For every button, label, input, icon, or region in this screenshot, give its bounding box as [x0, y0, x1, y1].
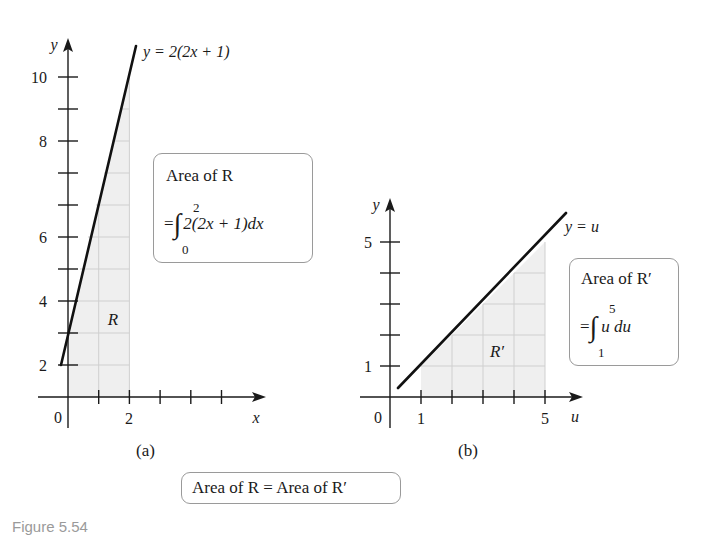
- u-tick-label-5: 5: [541, 410, 549, 427]
- area-r-prime-integrand: u du: [601, 317, 631, 336]
- origin-label: 0: [54, 409, 62, 426]
- equal-area-box: Area of R = Area of R′: [181, 472, 401, 504]
- u-axis-label: u: [571, 408, 579, 425]
- region-r-prime-label: R′: [489, 342, 504, 361]
- area-r-lower-limit: 0: [182, 240, 189, 260]
- y-tick-label-8: 8: [39, 133, 47, 150]
- area-r-integral: =∫2(2x + 1)dx: [164, 210, 264, 234]
- area-r-prime-lower-limit: 1: [598, 343, 605, 363]
- y-tick-label-5-b: 5: [364, 234, 372, 251]
- area-r-prime-box: Area of R′ =∫u du 5 1: [569, 258, 679, 366]
- figure-caption: Figure 5.54: [12, 518, 88, 535]
- area-r-prime-integral: =∫u du: [580, 313, 631, 337]
- u-tick-label-1: 1: [417, 410, 425, 427]
- panel-b-plot: 1 5 0 1 5 u y y = u R′: [360, 196, 599, 428]
- area-r-prime-upper-limit: 5: [609, 299, 616, 319]
- curve-label: y = 2(2x + 1): [141, 43, 229, 61]
- y-axis-label: y: [48, 36, 58, 54]
- y-tick-label-10: 10: [31, 69, 47, 86]
- x-axis-label: x: [251, 409, 259, 426]
- equal-area-text: Area of R = Area of R′: [192, 478, 347, 498]
- region-r-label: R: [107, 310, 119, 329]
- y-tick-label-4: 4: [39, 293, 47, 310]
- x-tick-label-2: 2: [125, 410, 133, 427]
- integral-sign-icon-b: ∫: [590, 311, 598, 342]
- panel-b-label: (b): [458, 441, 478, 461]
- origin-label-b: 0: [374, 409, 382, 426]
- area-r-prime-title: Area of R′: [581, 269, 652, 289]
- area-r-title: Area of R: [166, 166, 233, 186]
- area-r-box: Area of R =∫2(2x + 1)dx 2 0: [153, 153, 313, 263]
- y-tick-label-2: 2: [39, 357, 47, 374]
- integral-sign-icon: ∫: [174, 208, 182, 239]
- panel-a-label: (a): [136, 441, 155, 461]
- curve-label-b: y = u: [563, 218, 599, 236]
- y-tick-label-6: 6: [39, 229, 47, 246]
- y-axis-label-b: y: [370, 196, 380, 214]
- y-tick-label-1-b: 1: [364, 358, 372, 375]
- area-r-upper-limit: 2: [193, 198, 200, 218]
